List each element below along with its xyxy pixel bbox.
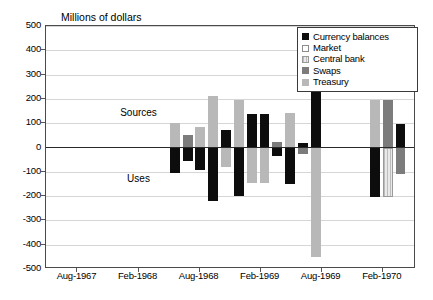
x-axis-tick-label: Feb-1970 <box>362 270 401 281</box>
bar <box>247 148 257 184</box>
bar <box>208 148 218 201</box>
legend-item-label: Central bank <box>313 54 364 64</box>
legend-item-label: Currency balances <box>313 32 389 42</box>
legend-item: Treasury <box>302 77 413 88</box>
x-axis-tick-label: Aug-1968 <box>179 270 219 281</box>
legend-swatch-icon <box>302 56 309 63</box>
bar <box>370 100 380 148</box>
annotation-uses: Uses <box>127 173 150 184</box>
chart-axis-title: Millions of dollars <box>61 11 142 23</box>
bar <box>370 148 380 197</box>
x-axis-tick-label: Feb-1969 <box>240 270 279 281</box>
gridline <box>46 220 414 221</box>
bar <box>396 124 406 147</box>
legend-item-label: Market <box>313 43 341 53</box>
gridline <box>46 245 414 246</box>
bar <box>208 96 218 148</box>
bar <box>234 148 244 197</box>
bar <box>285 148 295 184</box>
bar <box>383 100 393 148</box>
bar <box>195 127 205 147</box>
bar <box>383 148 393 197</box>
bar <box>221 148 231 167</box>
chart-root: Millions of dollars 5004003002001000-100… <box>0 0 433 300</box>
gridline <box>46 123 414 124</box>
bar <box>272 148 282 156</box>
bar <box>234 100 244 148</box>
bar <box>170 148 180 173</box>
gridline <box>46 196 414 197</box>
annotation-sources: Sources <box>120 107 157 118</box>
gridline <box>46 172 414 173</box>
y-axis-tick-marks <box>0 25 45 268</box>
legend-item-label: Swaps <box>313 66 341 76</box>
legend-item-label: Treasury <box>313 77 349 87</box>
bar <box>285 113 295 147</box>
legend-swatch-icon <box>302 33 309 40</box>
legend-swatch-icon <box>302 67 309 74</box>
x-axis-tick-label: Aug-1967 <box>57 270 97 281</box>
bar <box>298 148 308 155</box>
legend-swatch-icon <box>302 79 309 86</box>
bar <box>170 123 180 147</box>
bar <box>183 148 193 162</box>
bar <box>247 114 257 147</box>
x-axis-tick-label: Aug-1969 <box>301 270 341 281</box>
bar <box>260 148 270 184</box>
bar <box>311 148 321 257</box>
legend-item: Central bank <box>302 54 413 65</box>
legend-swatch-icon <box>302 45 309 52</box>
legend-item: Market <box>302 42 413 53</box>
bar <box>183 135 193 147</box>
legend-item: Currency balances <box>302 31 413 42</box>
bar <box>221 130 231 147</box>
x-axis-tick-label: Feb-1968 <box>118 270 157 281</box>
gridline <box>46 99 414 100</box>
bar <box>195 148 205 170</box>
chart-legend: Currency balancesMarketCentral bankSwaps… <box>297 27 418 92</box>
bar <box>396 148 406 174</box>
x-axis-tick-labels: Aug-1967Feb-1968Aug-1968Feb-1969Aug-1969… <box>45 270 415 286</box>
legend-item: Swaps <box>302 65 413 76</box>
bar <box>260 114 270 147</box>
